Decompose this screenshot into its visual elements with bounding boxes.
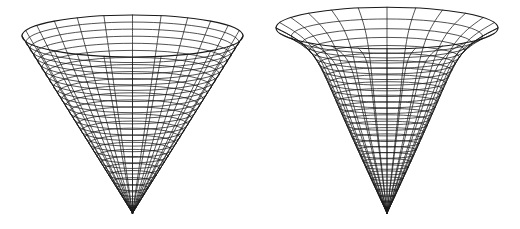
meridian-line bbox=[387, 28, 498, 213]
meridian-line bbox=[387, 33, 494, 213]
meridian-line bbox=[387, 38, 483, 213]
flared-funnel-wireframe bbox=[276, 7, 498, 213]
meridian-line bbox=[280, 33, 387, 213]
figure-canvas bbox=[0, 0, 520, 229]
meridian-line bbox=[332, 10, 388, 213]
meridian-line bbox=[387, 23, 494, 213]
meridian-line bbox=[291, 38, 387, 213]
funnel-wireframe-figure bbox=[0, 0, 520, 229]
meridian-line bbox=[276, 28, 387, 213]
silhouette-right bbox=[387, 28, 498, 213]
meridian-line bbox=[280, 23, 387, 213]
meridian-line bbox=[387, 10, 443, 213]
silhouette-left bbox=[276, 28, 387, 213]
